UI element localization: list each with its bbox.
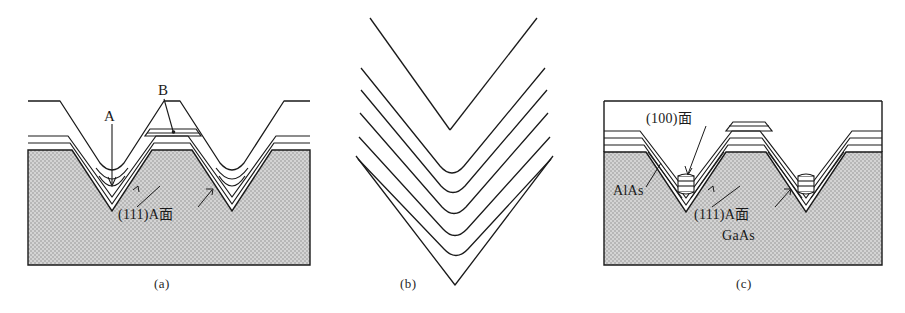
panel-c-leader-100 [685, 126, 706, 175]
panel-c-quantum-wire-2 [798, 174, 814, 194]
panel-a-caption: (a) [154, 276, 170, 292]
panel-a-label-facet-111: (111)A面 [118, 203, 174, 223]
panel-b-front-1-right [450, 18, 537, 130]
panel-c-quantum-wire-1 [678, 174, 694, 194]
panel-a-leader-a [108, 124, 116, 186]
panel-a-label-b: B [158, 82, 168, 99]
figure-root: A B (111)A面 (a) (b) (100)面 AlAs (111)A面 … [0, 0, 905, 313]
panel-c-caption: (c) [736, 276, 752, 292]
panel-a-label-a: A [104, 108, 115, 125]
panel-c-label-facet-111: (111)A面 [694, 203, 750, 223]
panel-c-label-facet-100: (100)面 [646, 107, 692, 127]
panel-b-front-6 [358, 159, 551, 256]
panel-b-front-3 [361, 90, 547, 193]
panel-a-graphic [28, 99, 310, 265]
panel-c-mesa-plate [726, 122, 772, 131]
figure-canvas [0, 0, 905, 313]
panel-b-caption: (b) [400, 276, 417, 292]
panel-b-graphic [356, 18, 553, 285]
panel-b-front-7 [356, 156, 553, 285]
panel-b-front-2 [361, 68, 545, 173]
panel-b-front-1-left [370, 18, 450, 130]
panel-b-front-5 [359, 137, 550, 236]
panel-c-label-gaas: GaAs [722, 228, 755, 244]
panel-a-groove2-inner [216, 168, 248, 186]
panel-c-label-alas: AlAs [613, 183, 644, 199]
